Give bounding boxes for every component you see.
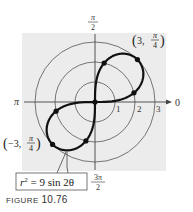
svg-text:3π: 3π: [94, 173, 102, 182]
polar-axis-arrow-icon: [166, 100, 172, 105]
svg-text:π: π: [91, 13, 96, 22]
equation-label: r2 = 9 sin 2θ: [20, 176, 74, 188]
svg-text:): ): [36, 136, 41, 152]
svg-text:3,: 3,: [137, 35, 145, 46]
curve-point: [131, 90, 136, 95]
svg-text:2: 2: [91, 23, 95, 32]
svg-text:4: 4: [153, 41, 157, 50]
figure-caption-word: FIGURE: [6, 196, 39, 205]
figure-caption-number: 10.76: [42, 194, 68, 205]
curve-point: [83, 138, 88, 143]
axis-label-pi: π: [14, 96, 20, 107]
curve-point: [102, 60, 107, 65]
figure-caption: FIGURE 10.76: [6, 194, 68, 205]
curve-point: [92, 99, 97, 104]
svg-text:2: 2: [96, 183, 100, 192]
polar-graph-figure: r2 = 9 sin 2θ 0 π π 2 3π 2 1 2 3 ( 3, π …: [0, 0, 193, 212]
axis-label-pi-over-2: π 2: [88, 13, 98, 32]
ring-label-2: 2: [137, 104, 142, 114]
svg-text:4: 4: [29, 144, 33, 153]
svg-text:): ): [160, 33, 165, 49]
ring-label-1: 1: [116, 104, 121, 114]
axis-label-zero: 0: [175, 97, 180, 108]
ring-label-3: 3: [156, 104, 161, 114]
curve-point: [53, 109, 58, 114]
axis-label-3pi-over-2: 3π 2: [91, 173, 105, 192]
curve-point: [50, 142, 55, 147]
svg-text:−3,: −3,: [8, 138, 21, 149]
curve-point: [135, 57, 140, 62]
